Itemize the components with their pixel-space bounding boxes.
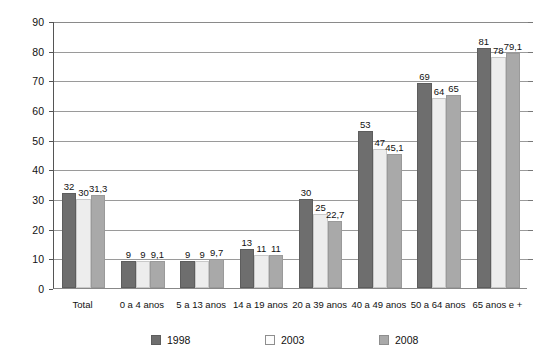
bar: [432, 98, 447, 288]
bar: [62, 193, 77, 288]
bar: [121, 261, 136, 288]
y-axis-tick-label: 40: [18, 165, 44, 175]
y-axis-tick-label: 90: [18, 17, 44, 27]
bar-value-label: 65: [439, 84, 468, 93]
bar: [195, 261, 210, 288]
bar: [387, 154, 402, 288]
legend-swatch-1998: [151, 335, 161, 345]
bar-value-label: 45,1: [380, 143, 409, 152]
bar: [150, 261, 165, 288]
bar-group: 302522,7: [299, 21, 343, 288]
bar-group: 323031,3: [62, 21, 106, 288]
bar: [446, 95, 461, 288]
legend-item[interactable]: 1998: [151, 333, 190, 347]
bar-value-label: 22,7: [321, 210, 350, 219]
bar: [358, 131, 373, 288]
y-axis-tick-label: 10: [18, 254, 44, 264]
y-axis-tick-label: 60: [18, 106, 44, 116]
bar: [180, 261, 195, 288]
bar-group: 131111: [240, 21, 284, 288]
bar: [313, 214, 328, 288]
y-axis-tick-label: 50: [18, 136, 44, 146]
bar-chart: 0102030405060708090 323031,3999,1999,713…: [0, 0, 547, 361]
bar-value-label: 79,1: [499, 42, 528, 51]
y-axis-tick-label: 70: [18, 76, 44, 86]
y-axis-tick-label: 80: [18, 47, 44, 57]
bar-group: 817879,1: [477, 21, 521, 288]
legend-label: 1998: [167, 335, 190, 346]
bar: [477, 48, 492, 288]
bar-value-label: 31,3: [84, 184, 113, 193]
bar: [417, 83, 432, 288]
bar: [254, 255, 269, 288]
bar-group: 696465: [417, 21, 461, 288]
bar: [299, 199, 314, 288]
legend-label: 2003: [281, 335, 304, 346]
bar: [269, 255, 284, 288]
bar: [373, 149, 388, 288]
y-axis-tick-mark: [49, 289, 53, 290]
legend-swatch-2008: [379, 335, 389, 345]
legend-swatch-2003: [265, 335, 275, 345]
bar-value-label: 9,7: [202, 248, 231, 257]
bar: [491, 57, 506, 288]
bar-value-label: 53: [351, 120, 380, 129]
bar-value-label: 9,1: [143, 250, 172, 259]
bar: [240, 249, 255, 288]
bar: [136, 261, 151, 288]
bar-group: 999,7: [180, 21, 224, 288]
x-axis-tick-label: 65 anos e +: [460, 300, 535, 310]
bar-group: 534745,1: [358, 21, 402, 288]
y-axis-tick-label: 0: [18, 284, 44, 294]
bar-value-label: 11: [262, 244, 291, 253]
bar-group: 999,1: [121, 21, 165, 288]
legend-label: 2008: [395, 335, 418, 346]
plot-area: 323031,3999,1999,7131111302522,7534745,1…: [53, 22, 527, 289]
legend-item[interactable]: 2008: [379, 333, 418, 347]
legend-item[interactable]: 2003: [265, 333, 304, 347]
bar: [209, 259, 224, 288]
bar: [328, 221, 343, 288]
bar-value-label: 69: [410, 72, 439, 81]
chart-legend: 199820032008: [0, 333, 547, 353]
bar: [91, 195, 106, 288]
bar: [76, 199, 91, 288]
bar-value-label: 30: [292, 188, 321, 197]
y-axis-tick-label: 30: [18, 195, 44, 205]
bar: [506, 53, 521, 288]
y-axis-tick-label: 20: [18, 225, 44, 235]
